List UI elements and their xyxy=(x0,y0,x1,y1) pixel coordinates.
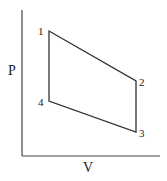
point-4-label: 4 xyxy=(38,96,44,108)
point-2-label: 2 xyxy=(139,76,145,88)
pv-diagram: P V 1 2 3 4 xyxy=(0,0,167,181)
x-axis-label: V xyxy=(83,160,93,175)
y-axis-label: P xyxy=(8,63,16,78)
point-3-label: 3 xyxy=(139,127,145,139)
point-1-label: 1 xyxy=(38,25,44,37)
cycle-path xyxy=(49,31,136,132)
